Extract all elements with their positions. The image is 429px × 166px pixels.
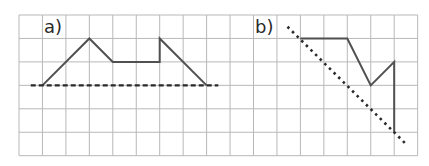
panel-a-shape [42,38,206,85]
symmetry-figure: a) b) [0,0,429,166]
panel-b: b) [255,16,406,144]
panel-a-label: a) [44,16,62,37]
panel-b-label: b) [255,16,273,37]
panel-a: a) [31,16,219,85]
